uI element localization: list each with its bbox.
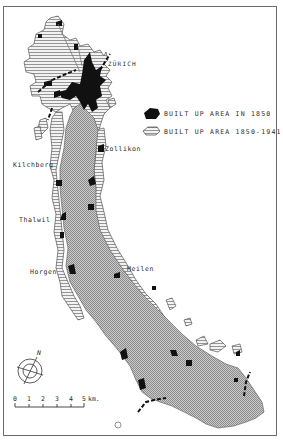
legend-label-1850-1941: BUILT UP AREA 1850-1941 <box>164 128 282 136</box>
scale-tick-4: 4 <box>69 395 73 403</box>
small-island-marker <box>115 422 121 428</box>
scale-tick-5: 5 <box>82 395 86 403</box>
legend-label-1850: BUILT UP AREA IN 1850 <box>164 110 271 118</box>
scale-bar <box>15 403 84 407</box>
compass-north-label: N <box>37 349 41 357</box>
label-kilchberg: Kilchberg <box>13 161 54 169</box>
label-meilen: Meilen <box>127 265 154 273</box>
legend-symbol-1850-1941 <box>143 127 160 135</box>
label-zurich: ZÜRICH <box>108 60 137 67</box>
scale-tick-0: 0 <box>13 395 17 403</box>
scale-tick-2: 2 <box>41 395 45 403</box>
legend-symbol-1850 <box>144 108 160 119</box>
legend-symbols <box>143 108 160 135</box>
label-zollikon: Zollikon <box>105 145 141 153</box>
lake <box>60 104 264 428</box>
scale-unit: km. <box>88 395 100 403</box>
label-thalwil: Thalwil <box>19 216 51 224</box>
compass-rose <box>17 357 43 384</box>
label-horgen: Horgen <box>30 268 57 276</box>
scale-tick-3: 3 <box>55 395 59 403</box>
scale-tick-1: 1 <box>27 395 31 403</box>
